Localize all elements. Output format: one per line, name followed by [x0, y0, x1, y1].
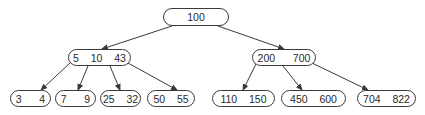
leaf-node-6: 450 600	[281, 90, 346, 107]
root-node: 100	[163, 8, 229, 26]
leaf-node-7: 704 822	[357, 90, 416, 107]
leaf-node-4: 50 55	[147, 90, 195, 107]
edge-internal-left-to-leaf-3	[110, 66, 120, 90]
leaf-node-5: 110 150	[212, 90, 275, 107]
edge-root-to-internal-right	[218, 26, 284, 49]
edge-internal-left-to-leaf-4	[128, 63, 177, 90]
edge-internal-left-to-leaf-1	[41, 63, 70, 90]
edge-internal-right-to-leaf-5	[243, 64, 256, 90]
edge-internal-right-to-leaf-6	[283, 66, 302, 90]
b-tree-diagram: 100 5 10 43 200 700 3 4 7 9 25 32 50 55 …	[0, 0, 425, 115]
leaf-node-3: 25 32	[100, 90, 141, 107]
internal-node-left: 5 10 43	[68, 49, 131, 66]
leaf-node-2: 7 9	[55, 90, 96, 107]
edge-internal-right-to-leaf-7	[312, 63, 368, 90]
edge-internal-left-to-leaf-2	[78, 66, 88, 90]
edge-root-to-internal-left	[102, 26, 172, 49]
leaf-node-1: 3 4	[10, 90, 51, 107]
internal-node-right: 200 700	[252, 49, 316, 66]
